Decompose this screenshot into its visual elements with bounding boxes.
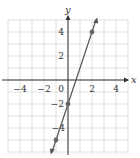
x-tick-label: 2 — [89, 84, 95, 94]
x-tick-label: −2 — [37, 84, 50, 94]
x-axis-label: x — [131, 74, 137, 85]
coordinate-plane: −4−202442−2−4 x y — [0, 0, 140, 158]
x-tick-label: −4 — [13, 84, 27, 94]
y-tick-label: −2 — [51, 99, 64, 109]
x-tick-label: 4 — [113, 84, 119, 94]
y-axis-label: y — [64, 4, 71, 15]
data-point — [66, 102, 71, 107]
y-tick-label: 4 — [58, 27, 64, 37]
data-point — [54, 138, 59, 143]
data-point — [90, 30, 95, 35]
y-tick-label: 2 — [58, 51, 64, 61]
y-axis-arrow-icon — [66, 15, 71, 20]
x-tick-label: 0 — [58, 84, 64, 94]
